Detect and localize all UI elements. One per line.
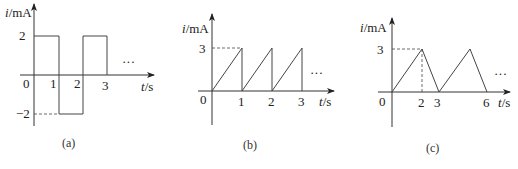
origin-label: 0	[23, 76, 30, 91]
chart-b: i/mA 3 0 1 2 3 t/s ··· (b)	[182, 14, 334, 152]
x-tick-2: 2	[418, 95, 425, 110]
triangle-wave	[392, 49, 487, 92]
chart-a: i/mA 2 −2 0 1 2 3 t/s ··· (a)	[5, 4, 154, 150]
caption: (a)	[62, 136, 75, 150]
x-tick-3: 3	[102, 78, 109, 93]
sawtooth-wave	[212, 48, 302, 91]
x-tick-1: 1	[50, 76, 57, 91]
x-tick-6: 6	[483, 95, 490, 110]
origin-label: 0	[379, 94, 386, 109]
x-axis-label: t/s	[498, 95, 510, 110]
continuation-ellipsis: ···	[122, 54, 135, 69]
origin-label: 0	[200, 92, 207, 107]
chart-c: i/mA 3 0 2 3 6 t/s ··· (c)	[360, 18, 510, 155]
figure-canvas: i/mA 2 −2 0 1 2 3 t/s ··· (a) i/mA 3 0 1…	[0, 0, 518, 169]
x-tick-3: 3	[298, 94, 305, 109]
x-tick-2: 2	[74, 76, 81, 91]
x-tick-1: 1	[238, 94, 245, 109]
y-tick-neg2: −2	[16, 106, 30, 121]
x-axis-label: t/s	[319, 94, 331, 109]
caption: (c)	[426, 141, 439, 155]
continuation-ellipsis: ···	[310, 65, 323, 80]
x-axis-label: t/s	[141, 79, 153, 94]
x-tick-3: 3	[434, 95, 441, 110]
caption: (b)	[243, 138, 257, 152]
y-axis-label: i/mA	[360, 20, 387, 35]
y-tick-3: 3	[377, 42, 384, 57]
y-axis-label: i/mA	[182, 21, 209, 36]
x-tick-2: 2	[268, 94, 275, 109]
y-axis-label: i/mA	[5, 5, 32, 20]
continuation-ellipsis: ···	[494, 66, 507, 81]
y-tick-2: 2	[19, 28, 26, 43]
y-tick-3: 3	[199, 41, 206, 56]
